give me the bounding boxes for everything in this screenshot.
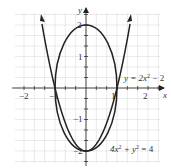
arrow-left-icon [40,14,45,22]
x-tick-label: 1 [111,91,116,101]
y-tick-label: −1 [73,114,83,124]
x-tick-label: 2 [143,91,148,101]
parabola-equation-label: y = 2x2 − 2 [123,73,164,83]
ellipse-equation-label: 4x2 + y2 = 4 [110,144,154,154]
graph: x y −2 −1 1 2 2 1 −1 −2 y = 2x2 − 2 4x2 … [0,0,171,168]
x-axis-label: x [162,90,167,100]
y-tick-label: 2 [77,20,82,30]
y-tick-label: −2 [73,146,83,156]
y-tick-label: 1 [78,52,83,62]
x-tick-label: −2 [19,91,29,101]
x-tick-label: −1 [49,91,59,101]
arrow-right-icon [127,14,132,22]
y-axis-label: y [77,5,82,15]
